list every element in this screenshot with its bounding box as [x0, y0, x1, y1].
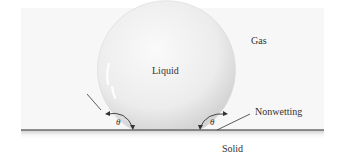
- theta-right-symbol: θ: [210, 117, 214, 127]
- contact-angle-diagram: Gas Liquid Nonwetting Solid θ θ: [0, 0, 341, 161]
- theta-left-symbol: θ: [116, 117, 120, 127]
- gas-label: Gas: [251, 35, 267, 46]
- nonwetting-label: Nonwetting: [255, 106, 302, 117]
- diagram-canvas: [0, 0, 341, 161]
- solid-shadow: [21, 130, 324, 139]
- liquid-label: Liquid: [152, 65, 179, 76]
- solid-label: Solid: [222, 143, 243, 154]
